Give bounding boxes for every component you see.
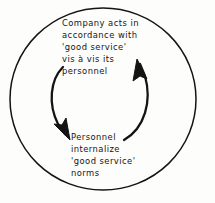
personnel-internalize-line-4: norms [71,167,135,179]
company-acts-line-1: Company acts in [62,17,139,29]
company-acts-line-2: accordance with [62,29,139,41]
company-acts-node: Company acts in accordance with 'good se… [62,17,139,77]
diagram-canvas: Company acts in accordance with 'good se… [0,0,215,203]
company-acts-line-4: vis à vis its [62,53,139,65]
personnel-internalize-line-1: Personnel [71,131,135,143]
personnel-internalize-line-3: 'good service' [71,155,135,167]
arrow-left-downward [52,67,70,140]
personnel-internalize-line-2: internalize [71,143,135,155]
personnel-internalize-node: Personnel internalize 'good service' nor… [71,131,135,179]
company-acts-line-3: 'good service' [62,41,139,53]
company-acts-line-5: personnel [62,65,139,77]
